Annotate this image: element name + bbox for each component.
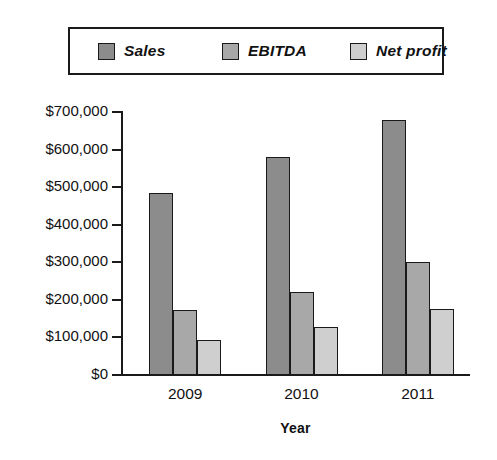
x-axis-category-label-2010: 2010 [257, 385, 347, 403]
y-axis-tick-mark [112, 186, 121, 188]
x-axis-title: Year [121, 420, 470, 436]
bar-ebitda-2010 [290, 292, 314, 375]
y-axis-tick-mark [112, 149, 121, 151]
bar-ebitda-2009 [173, 310, 197, 375]
y-axis-tick-mark [112, 374, 121, 376]
bar-ebitda-2011 [406, 262, 430, 375]
y-axis-tick-mark [112, 224, 121, 226]
bar-net-profit-2010 [314, 327, 338, 375]
y-axis-tick-label: $300,000 [4, 252, 108, 269]
chart-figure: Sales EBITDA Net profit $0$100,000$200,0… [0, 0, 497, 460]
legend-label-sales: Sales [124, 42, 166, 60]
y-axis-tick-label: $700,000 [4, 102, 108, 119]
y-axis-tick-label: $100,000 [4, 327, 108, 344]
y-axis-tick-label: $200,000 [4, 290, 108, 307]
x-axis-category-label-2011: 2011 [373, 385, 463, 403]
legend-entry-net-profit: Net profit [350, 42, 447, 60]
chart-legend: Sales EBITDA Net profit [68, 27, 444, 75]
y-axis-tick-label: $0 [4, 365, 108, 382]
bar-sales-2010 [266, 157, 290, 375]
y-axis-tick-label: $600,000 [4, 140, 108, 157]
y-axis-tick-mark [112, 111, 121, 113]
y-axis-tick-mark [112, 336, 121, 338]
y-axis-tick-label: $500,000 [4, 177, 108, 194]
bar-sales-2011 [382, 120, 406, 375]
legend-label-ebitda: EBITDA [248, 42, 307, 60]
y-axis-tick-label: $400,000 [4, 215, 108, 232]
chart-plot-area [121, 112, 470, 375]
legend-label-net-profit: Net profit [376, 42, 447, 60]
y-axis-tick-mark [112, 299, 121, 301]
y-axis-tick-mark [112, 261, 121, 263]
x-axis-category-label-2009: 2009 [140, 385, 230, 403]
bar-net-profit-2011 [430, 309, 454, 376]
legend-swatch-net-profit [350, 43, 367, 60]
legend-entry-ebitda: EBITDA [222, 42, 307, 60]
bar-net-profit-2009 [197, 340, 221, 375]
legend-entry-sales: Sales [98, 42, 166, 60]
legend-swatch-ebitda [222, 43, 239, 60]
y-axis-tick-labels: $0$100,000$200,000$300,000$400,000$500,0… [0, 0, 108, 460]
bar-sales-2009 [149, 193, 173, 375]
